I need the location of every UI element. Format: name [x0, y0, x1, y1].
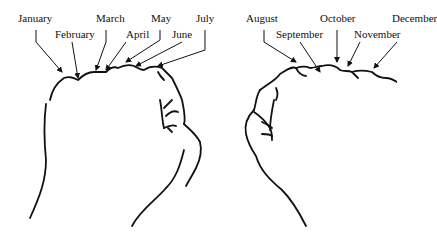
label-november: November: [354, 29, 400, 40]
label-april: April: [126, 29, 149, 40]
label-february: February: [55, 29, 95, 40]
label-december: December: [392, 13, 437, 24]
label-august: August: [246, 13, 278, 24]
label-july: July: [196, 13, 214, 24]
left-fist-icon: [30, 65, 201, 226]
label-january: January: [18, 13, 52, 24]
label-june: June: [172, 29, 192, 40]
label-may: May: [151, 13, 171, 24]
right-fist-icon: [245, 65, 397, 226]
label-october: October: [320, 13, 355, 24]
label-september: September: [276, 29, 323, 40]
label-march: March: [96, 13, 125, 24]
